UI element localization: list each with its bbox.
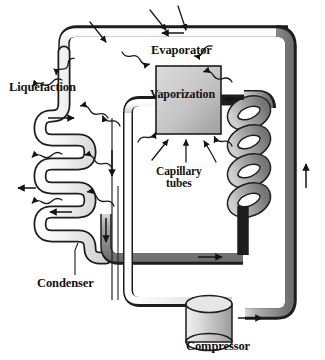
capillary-tubes-lines: [112, 118, 118, 300]
evaporator-helical-coil: [229, 96, 270, 255]
label-compressor: Compressor: [186, 340, 250, 354]
label-evaporator: Evaporator: [151, 44, 212, 58]
label-condenser: Condenser: [37, 277, 94, 291]
label-vaporization: Vaporization: [150, 88, 215, 101]
label-liquefaction: Liquefaction: [9, 81, 76, 95]
refrigeration-cycle-diagram: Liquefaction Evaporator Vaporization Cap…: [0, 0, 325, 360]
label-capillary-tubes: Capillary tubes: [156, 165, 202, 190]
